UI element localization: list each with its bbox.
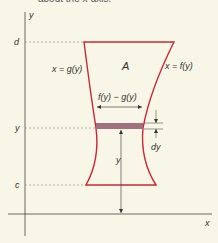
strip (96, 123, 143, 129)
c-level-label: c (15, 180, 20, 190)
y-axis-label: y (28, 10, 34, 20)
right-curve-label: x = f(y) (164, 61, 193, 71)
left-curve-label: x = g(y) (51, 64, 82, 74)
strip-width-label: f(y) − g(y) (98, 92, 137, 102)
height-label: y (115, 155, 121, 165)
dy-label: dy (151, 142, 161, 152)
dy-arrowheads (154, 119, 158, 133)
region-label: A (121, 60, 129, 72)
x-axis-label: x (204, 218, 210, 228)
y-level-label: y (14, 123, 20, 133)
d-level-label: d (14, 37, 20, 47)
area-diagram: y x d y c f(y) − g(y) dy y A x = g(y) x … (0, 0, 218, 243)
